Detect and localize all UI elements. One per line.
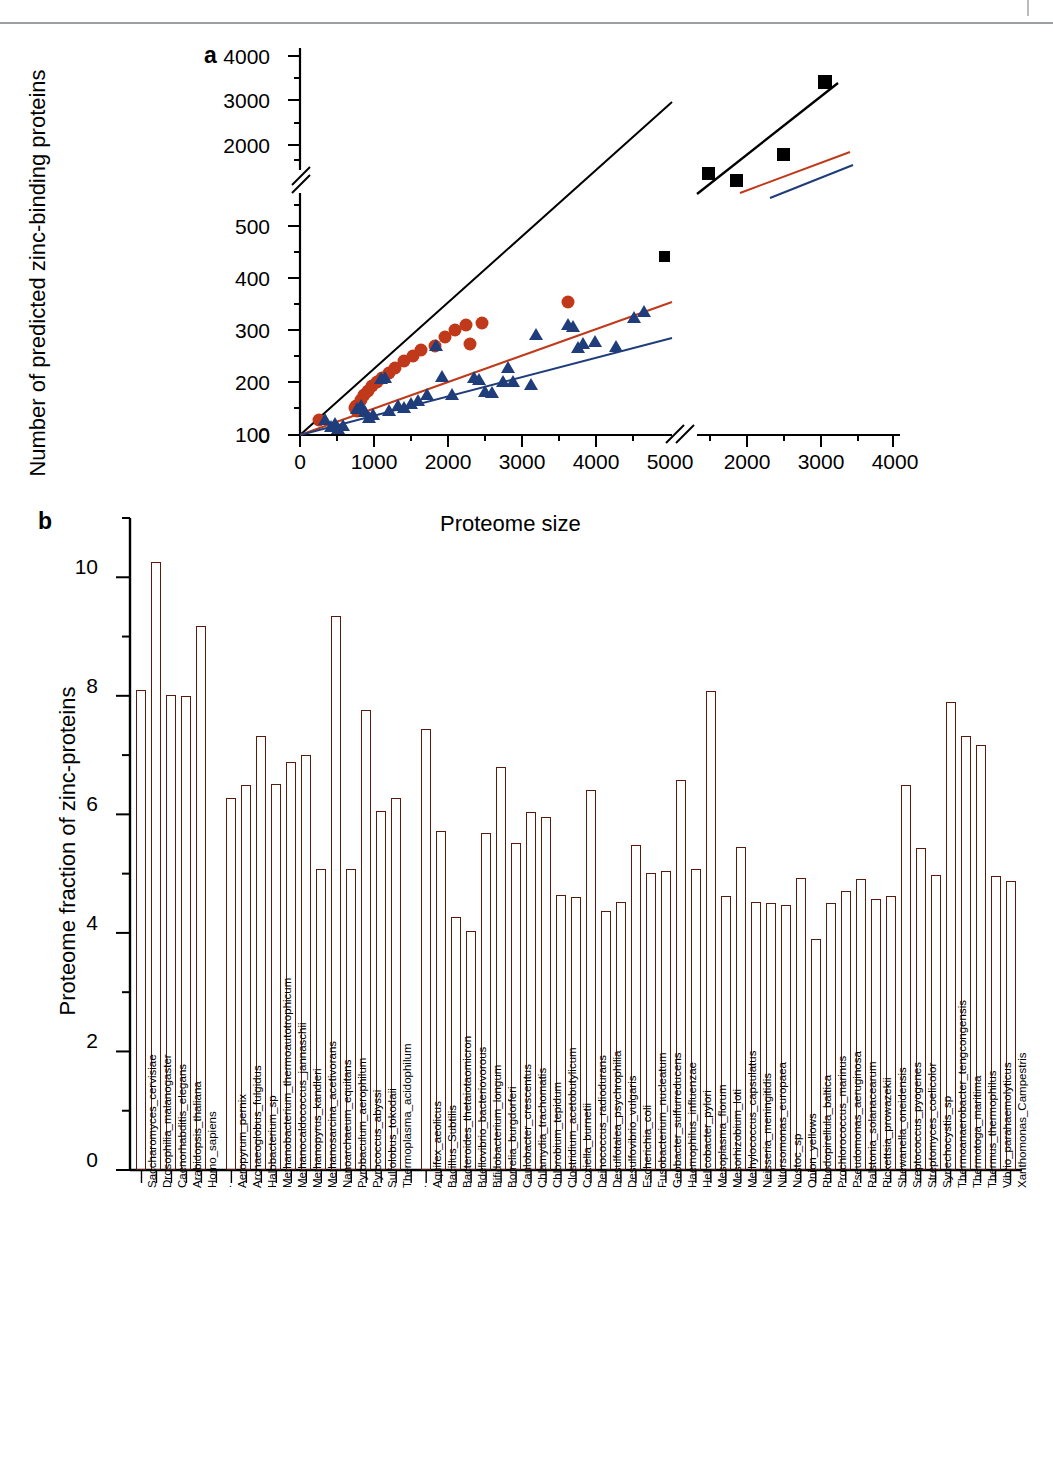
panel-b-xtick-label: Neisseria_meningitidis bbox=[761, 1073, 773, 1188]
bar bbox=[136, 690, 146, 1170]
panel-b-xtick-label: Fusobacterium_nucleatum bbox=[656, 1052, 668, 1188]
panel-b-xtick-label: Arabidopsis_thaliana bbox=[191, 1081, 203, 1188]
panel-b-xtick-label: Desulfotalea_psychrophilia bbox=[611, 1051, 623, 1188]
panel-b-xtick-label: Methanocaldococcus_jannaschii bbox=[296, 1022, 308, 1188]
panel-a-ytick-300: 300 bbox=[180, 319, 270, 343]
panel-b-xtick-label: Nanoarchaeum_equitans bbox=[341, 1059, 353, 1188]
panel-a: a Number of predicted zinc-binding prote… bbox=[0, 30, 1053, 510]
panel-b-xtick-label: Haemophilus_influenzae bbox=[686, 1062, 698, 1188]
panel-a-circle-markers bbox=[313, 296, 575, 427]
panel-a-ytick-0: 0 bbox=[220, 424, 270, 448]
panel-a-ytick-3000: 3000 bbox=[180, 89, 270, 113]
panel-a-ytick-200: 200 bbox=[180, 371, 270, 395]
panel-b-xtick-label: Mesorhizobium_loti bbox=[731, 1089, 743, 1188]
panel-b-xtick-label: Halobacterium_sp bbox=[266, 1095, 278, 1188]
panel-b-xtick-label: Methanopyrus_kandleri bbox=[311, 1068, 323, 1188]
panel-b-xtick-label: Archaeoglobus_fulgidus bbox=[251, 1065, 263, 1188]
panel-b-xtick-label: Sulfolobus_tokodaii bbox=[386, 1088, 398, 1188]
panel-b-xtick-label: Pseudomonas_aeruginosa bbox=[851, 1051, 863, 1188]
panel-a-xtick-3000: 3000 bbox=[482, 450, 562, 474]
panel-a-xtick-r3000: 3000 bbox=[781, 450, 861, 474]
panel-a-ytick-400: 400 bbox=[180, 267, 270, 291]
panel-b-xtick-label: Geobacter_sulfurreducens bbox=[671, 1052, 683, 1188]
panel-b: b Proteome fraction of zinc-proteins 024… bbox=[0, 508, 1053, 1483]
panel-b-xtick-label: Pyrococcus_abyssi bbox=[371, 1090, 383, 1188]
panel-b-xtick-label: Bacillus_Subtilis bbox=[446, 1105, 458, 1188]
panel-a-xtick-4000: 4000 bbox=[556, 450, 636, 474]
panel-b-xtick-label: Saccharomyces_cervisiae bbox=[146, 1054, 158, 1188]
panel-b-xtick-label: Bdellovibrio_bacteriovorous bbox=[476, 1047, 488, 1188]
panel-b-xtick-label: Streptomyces_coelicolor bbox=[926, 1063, 938, 1188]
panel-b-xtick-label: Thermoanaerobacter_tengcongensis bbox=[956, 1000, 968, 1188]
panel-a-plot bbox=[0, 30, 1053, 500]
panel-b-xtick-label: Sreptococcus_pyogenes bbox=[911, 1062, 923, 1188]
panel-b-xtick-label: Shewanella_oneidensis bbox=[896, 1067, 908, 1188]
panel-b-ytick-10: 10 bbox=[58, 555, 98, 579]
bar bbox=[421, 729, 431, 1170]
panel-b-xtick-label: Caenorhabditis_elegans bbox=[176, 1064, 188, 1188]
panel-b-xtick-label: Rhodopirellula_baltica bbox=[821, 1075, 833, 1188]
page-top-rule-tick bbox=[1027, 0, 1029, 16]
panel-b-xtick-label: Rickettsia_prowazekii bbox=[881, 1077, 893, 1188]
panel-b-group-separator: . bbox=[221, 1185, 233, 1188]
panel-b-xtick-label: Methanosarcina_acetivorans bbox=[326, 1041, 338, 1188]
panel-b-xtick-label: Clostridium_acetobutylicum bbox=[566, 1047, 578, 1188]
panel-b-ytick-0: 0 bbox=[58, 1148, 98, 1172]
panel-a-xtick-5000: 5000 bbox=[630, 450, 710, 474]
panel-b-xtick-label: Mesoplasma_florum bbox=[716, 1084, 728, 1188]
page-top-rule bbox=[0, 22, 1053, 24]
panel-b-xtick-label: Caulobacter_crescentus bbox=[521, 1064, 533, 1188]
panel-b-xtick-label: Chlamydia_trachomatis bbox=[536, 1068, 548, 1188]
panel-b-xtick-label: Ralstonia_solanacearum bbox=[866, 1061, 878, 1188]
panel-b-xtick-label: Bacteroides_thetaiotaomicron bbox=[461, 1036, 473, 1188]
panel-a-ytick-500: 500 bbox=[180, 215, 270, 239]
panel-b-ytick-4: 4 bbox=[58, 911, 98, 935]
panel-b-xtick-label: Escherichia_coli bbox=[641, 1105, 653, 1188]
panel-a-xtick-r4000: 4000 bbox=[855, 450, 935, 474]
panel-b-xtick-label: Synechocystis_sp bbox=[941, 1096, 953, 1188]
panel-a-ytick-2000: 2000 bbox=[180, 134, 270, 158]
panel-b-xtick-label: Nitorsomonas_europaea bbox=[776, 1062, 788, 1188]
panel-a-xtick-2000: 2000 bbox=[408, 450, 488, 474]
panel-b-xtick-label: Borrelia_burgdorferi bbox=[506, 1086, 518, 1188]
panel-b-ytick-2: 2 bbox=[58, 1029, 98, 1053]
bar bbox=[226, 798, 236, 1170]
panel-a-xtick-0: 0 bbox=[260, 450, 340, 474]
panel-b-xtick-label: Desulfovibrio_vulgaris bbox=[626, 1076, 638, 1189]
panel-b-xtick-label: Bifidobacterium_longum bbox=[491, 1065, 503, 1188]
panel-a-ytick-4000: 4000 bbox=[180, 45, 270, 69]
panel-b-xtick-label: Methylococcus_capsulatus bbox=[746, 1051, 758, 1188]
panel-b-xtick-label: Thermoplasma_acidophilum bbox=[401, 1044, 413, 1188]
panel-b-xtick-label: Aquifex_aeolicus bbox=[431, 1101, 443, 1188]
panel-b-xtick-label: Aeropyrum_pernix bbox=[236, 1094, 248, 1188]
panel-b-group-separator: . bbox=[416, 1185, 428, 1188]
panel-b-xtick-label: Deinococcus_radiodurans bbox=[596, 1055, 608, 1188]
panel-b-xtick-label: Xanthomonas_Campestris bbox=[1016, 1052, 1028, 1188]
panel-b-xtick-label: Chlorobium_tepidum bbox=[551, 1082, 563, 1188]
panel-b-xtick-label: Thermotoga_maritima bbox=[971, 1076, 983, 1188]
panel-b-xtick-label: Methanobacterium_thermoautotrophicum bbox=[281, 978, 293, 1188]
panel-b-xtick-label: Prochlorococcus_marinus bbox=[836, 1056, 848, 1188]
panel-b-xtick-label: Thermus_thermophilus bbox=[986, 1070, 998, 1188]
panel-a-xtick-1000: 1000 bbox=[334, 450, 414, 474]
panel-b-xtick-label: Helicobacter_pylori bbox=[701, 1090, 713, 1188]
panel-b-xtick-label: Pyrobaculum_aerophilum bbox=[356, 1058, 368, 1188]
panel-a-xtick-r2000: 2000 bbox=[707, 450, 787, 474]
panel-b-xtick-label: Drosophilia_malanogaster bbox=[161, 1054, 173, 1188]
bar bbox=[796, 878, 806, 1170]
panel-b-xtick-label: Coxiella_burnetii bbox=[581, 1103, 593, 1188]
panel-b-ytick-8: 8 bbox=[58, 674, 98, 698]
panel-b-ytick-6: 6 bbox=[58, 792, 98, 816]
panel-b-xtick-label: Vibrio_parahaemolyticus bbox=[1001, 1062, 1013, 1188]
panel-b-xtick-label: Homo_sapiens bbox=[206, 1111, 218, 1188]
panel-b-xtick-label: Onion_yellows bbox=[806, 1113, 818, 1188]
panel-b-xtick-label: Nostoc_sp bbox=[791, 1134, 803, 1188]
